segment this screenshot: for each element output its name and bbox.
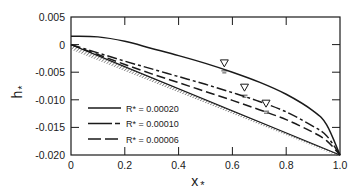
y-axis-label-subscript: * <box>16 85 28 90</box>
x-tick-label: 0.4 <box>171 159 186 171</box>
x-tick-label: 0 <box>68 159 74 171</box>
water-table-marker-icon <box>241 84 249 91</box>
x-axis-label: x* <box>191 173 205 191</box>
legend: R* = 0.00020R* = 0.00010R* = 0.00006 <box>88 104 179 145</box>
plot-frame <box>71 17 340 155</box>
legend-label: R* = 0.00010 <box>126 119 179 129</box>
y-axis-label: h* <box>9 85 28 99</box>
x-tick-label: 1.0 <box>333 159 348 171</box>
y-tick-label: 0.005 <box>39 11 65 23</box>
x-tick-label: 0.8 <box>279 159 294 171</box>
x-axis-label-subscript: * <box>200 179 205 191</box>
y-tick-label: 0 <box>59 39 65 51</box>
water-table-marker-icon <box>220 60 228 67</box>
series-line <box>71 36 340 155</box>
chart: 00.20.40.60.81.0 0.0050-0.005-0.010-0.01… <box>0 0 355 194</box>
water-table-marker-icon <box>262 100 270 107</box>
y-tick-label: -0.010 <box>35 94 65 106</box>
y-tick-label: -0.015 <box>35 121 65 133</box>
x-axis-ticks: 00.20.40.60.81.0 <box>68 17 347 171</box>
x-tick-label: 0.2 <box>117 159 132 171</box>
legend-label: R* = 0.00020 <box>126 104 179 114</box>
y-tick-label: -0.020 <box>35 149 65 161</box>
series-lines <box>71 36 340 155</box>
x-tick-label: 0.6 <box>225 159 240 171</box>
legend-label: R* = 0.00006 <box>126 135 179 145</box>
y-tick-label: -0.005 <box>35 66 65 78</box>
